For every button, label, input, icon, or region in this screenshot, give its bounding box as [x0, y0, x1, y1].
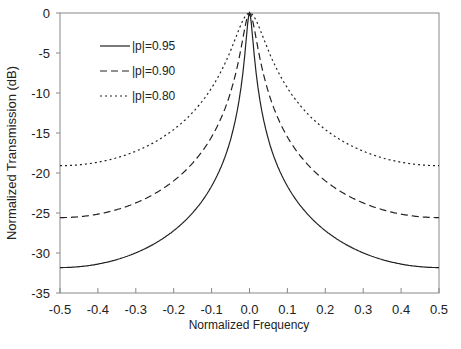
legend-label: |p|=0.80 — [132, 89, 176, 103]
x-tick-label: 0.4 — [392, 302, 410, 317]
x-axis-label: Normalized Frequency — [189, 318, 310, 332]
data-series — [60, 13, 439, 268]
x-tick-label: -0.5 — [49, 302, 71, 317]
x-tick-label: 0.1 — [278, 302, 296, 317]
x-tick-label: -0.1 — [200, 302, 222, 317]
y-axis-ticks: 0-5-10-15-20-25-30-35 — [31, 6, 60, 301]
x-tick-label: -0.3 — [125, 302, 147, 317]
y-tick-label: -10 — [31, 86, 50, 101]
x-axis-ticks: -0.5-0.4-0.3-0.2-0.10.00.10.20.30.40.5 — [49, 288, 448, 317]
y-tick-label: -30 — [31, 246, 50, 261]
x-tick-label: 0.3 — [354, 302, 372, 317]
transmission-chart: 0-5-10-15-20-25-30-35 -0.5-0.4-0.3-0.2-0… — [0, 0, 461, 349]
x-tick-label: 0.5 — [430, 302, 448, 317]
plot-frame — [60, 13, 439, 293]
series-line — [60, 13, 439, 268]
x-tick-label: -0.2 — [162, 302, 184, 317]
x-tick-label: 0.2 — [316, 302, 334, 317]
y-tick-label: -5 — [38, 46, 50, 61]
legend-label: |p|=0.90 — [132, 64, 176, 78]
series-line — [60, 13, 439, 166]
y-tick-label: -25 — [31, 206, 50, 221]
y-tick-label: 0 — [43, 6, 50, 21]
y-axis-label: Normalized Transmission (dB) — [4, 66, 19, 240]
x-tick-label: 0.0 — [240, 302, 258, 317]
y-tick-label: -35 — [31, 286, 50, 301]
y-tick-label: -20 — [31, 166, 50, 181]
legend: |p|=0.95|p|=0.90|p|=0.80 — [100, 39, 176, 103]
legend-label: |p|=0.95 — [132, 39, 176, 53]
x-tick-label: -0.4 — [87, 302, 109, 317]
series-line — [60, 13, 439, 218]
y-tick-label: -15 — [31, 126, 50, 141]
